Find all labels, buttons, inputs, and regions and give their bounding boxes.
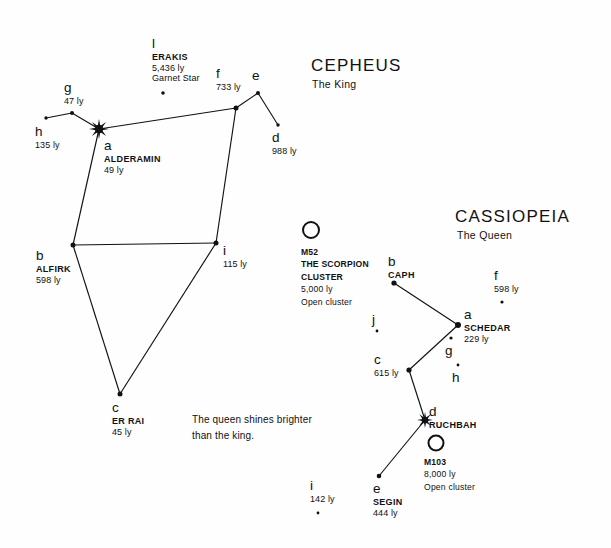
star-marker-bright — [89, 119, 109, 139]
cluster-distance-m52: 5,000 ly — [301, 283, 369, 295]
star-marker — [234, 106, 239, 111]
star-distance-cep-h: 135 ly — [35, 140, 60, 151]
star-label-cas-g: g — [445, 343, 453, 359]
star-bayer-cas-e: e — [373, 481, 403, 497]
star-bayer-cep-g: g — [64, 80, 84, 96]
star-bayer-cas-c: c — [374, 352, 399, 368]
star-distance-cas-c: 615 ly — [374, 368, 399, 379]
constellation-title-cassiopeia: CASSIOPEIA — [455, 207, 570, 227]
star-marker — [377, 474, 382, 479]
star-distance-cep-c: 45 ly — [112, 427, 144, 438]
star-label-cep-h: h135 ly — [35, 124, 60, 151]
star-distance-cas-a: 229 ly — [464, 334, 511, 345]
cluster-name-m52: M52 — [301, 246, 369, 258]
star-marker — [449, 336, 452, 339]
star-bayer-cep-d: d — [272, 130, 297, 146]
star-label-cep-f: f733 ly — [216, 66, 241, 93]
star-marker — [256, 91, 260, 95]
star-bayer-cep-i: i — [223, 243, 247, 259]
cluster-label-m52: M52THE SCORPIONCLUSTER5,000 lyOpen clust… — [301, 246, 369, 308]
star-marker — [71, 243, 76, 248]
star-distance-cep-i: 115 ly — [223, 259, 247, 270]
chart-note: The queen shines brighter than the king. — [192, 412, 312, 443]
star-bayer-cas-g: g — [445, 343, 453, 359]
constellation-line — [72, 113, 99, 129]
constellation-line — [409, 370, 425, 420]
star-label-cas-i: i142 ly — [310, 478, 335, 505]
constellation-subtitle-cassiopeia: The Queen — [457, 229, 512, 241]
constellation-line — [99, 108, 236, 129]
star-label-cas-c: c615 ly — [374, 352, 399, 379]
star-label-cas-e: eSEGIN444 ly — [373, 481, 403, 518]
cluster-type-m52: Open cluster — [301, 296, 369, 308]
star-bayer-cep-f: f — [216, 66, 241, 82]
constellation-line — [73, 243, 216, 245]
star-marker — [214, 241, 219, 246]
star-distance-cep-g: 47 ly — [64, 96, 84, 107]
star-propername-cas-a: SCHEDAR — [464, 323, 511, 334]
star-label-cas-b: bCAPH — [388, 254, 415, 281]
star-marker — [376, 330, 379, 333]
constellation-line — [120, 243, 216, 394]
star-propername-cep-b: ALFIRK — [36, 264, 71, 275]
star-marker — [317, 512, 320, 515]
constellation-line — [46, 113, 72, 118]
star-marker — [70, 111, 74, 115]
star-marker — [391, 280, 396, 285]
star-propername-cas-d: RUCHBAH — [429, 420, 477, 431]
cluster-distance-m103: 8,000 ly — [424, 468, 475, 480]
star-bayer-cep-c: c — [112, 400, 144, 416]
chart-note-line2: than the king. — [192, 428, 312, 444]
star-distance-cep-b: 598 ly — [36, 275, 71, 286]
star-label-cep-d: d988 ly — [272, 130, 297, 157]
star-bayer-cas-h: h — [452, 370, 460, 386]
cluster-circle-icon — [303, 222, 319, 238]
star-distance-cep-d: 988 ly — [272, 146, 297, 157]
constellation-line — [73, 245, 120, 394]
star-distance-cas-f: 598 ly — [494, 284, 519, 295]
star-bayer-cep-b: b — [36, 248, 71, 264]
cluster-altname1-m52: THE SCORPION — [301, 258, 369, 270]
star-marker — [455, 322, 461, 328]
star-marker — [44, 116, 47, 119]
star-marker — [161, 91, 165, 95]
star-distance-cas-i: 142 ly — [310, 494, 335, 505]
star-chart: CEPHEUSThe KingCASSIOPEIAThe Queen aALDE… — [0, 0, 611, 548]
star-marker — [406, 367, 411, 372]
star-bayer-cas-f: f — [494, 268, 519, 284]
star-label-cep-c: cER RAI45 ly — [112, 400, 144, 437]
star-bayer-cep-a: a — [104, 138, 161, 154]
constellation-line — [216, 108, 236, 243]
star-distance-cas-e: 444 ly — [373, 508, 403, 519]
star-bayer-cep-l: l — [152, 36, 200, 52]
star-label-cas-j: j — [372, 312, 375, 328]
star-bayer-cas-b: b — [388, 254, 415, 270]
constellation-line — [258, 93, 278, 125]
star-marker — [457, 364, 460, 367]
star-bayer-cas-j: j — [372, 312, 375, 328]
star-label-cep-i: i115 ly — [223, 243, 247, 270]
star-bayer-cas-a: a — [464, 307, 511, 323]
constellation-title-cepheus: CEPHEUS — [311, 56, 402, 76]
constellation-line — [73, 129, 99, 245]
constellation-line — [236, 93, 258, 108]
star-label-cas-d: dRUCHBAH — [429, 404, 477, 431]
star-label-cep-b: bALFIRK598 ly — [36, 248, 71, 285]
star-marker — [118, 392, 123, 397]
star-label-cep-l: lERAKIS5,436 lyGarnet Star — [152, 36, 200, 84]
cluster-altname2-m52: CLUSTER — [301, 271, 369, 283]
cluster-circle-icon — [429, 436, 444, 451]
star-propername-cas-e: SEGIN — [373, 497, 403, 508]
constellation-line — [394, 283, 458, 325]
star-bayer-cep-h: h — [35, 124, 60, 140]
star-label-cas-h: h — [452, 370, 460, 386]
constellation-subtitle-cepheus: The King — [312, 78, 356, 90]
star-bayer-cas-d: d — [429, 404, 477, 420]
star-label-cas-f: f598 ly — [494, 268, 519, 295]
star-marker — [276, 123, 279, 126]
star-bayer-cas-i: i — [310, 478, 335, 494]
star-label-cas-a: aSCHEDAR229 ly — [464, 307, 511, 344]
star-propername-cep-c: ER RAI — [112, 416, 144, 427]
star-extra-cep-l: Garnet Star — [152, 73, 200, 84]
star-bayer-cep-e: e — [252, 68, 260, 84]
